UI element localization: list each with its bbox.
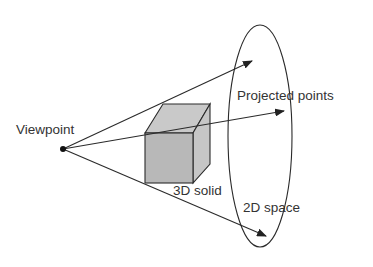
viewpoint-dot <box>60 146 66 152</box>
viewpoint-label: Viewpoint <box>16 123 74 137</box>
space-label: 2D space <box>243 201 300 215</box>
solid-label: 3D solid <box>173 184 222 198</box>
projected-points-label: Projected points <box>237 89 334 103</box>
cube-3d-solid <box>145 104 210 183</box>
